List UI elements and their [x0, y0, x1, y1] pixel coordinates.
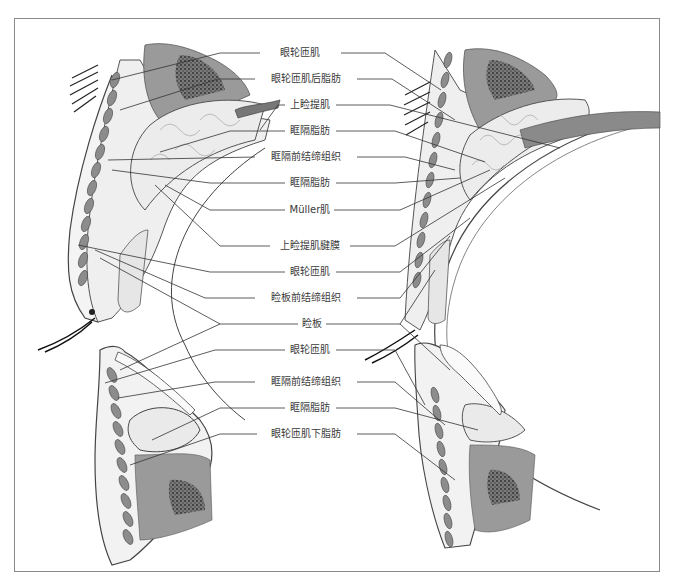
label-tarsus: 睑板 — [300, 318, 324, 330]
label-preseptal-connective-tissue-2: 眶隔前结缔组织 — [269, 376, 343, 388]
right-upper-eyelash — [365, 330, 418, 363]
label-muller-muscle: Müller肌 — [288, 204, 333, 216]
right-lower-orbital-fat — [462, 404, 525, 442]
label-orbicularis-oculi-2: 眼轮匝肌 — [288, 266, 332, 278]
label-preseptal-connective-tissue-1: 眶隔前结缔组织 — [269, 151, 343, 163]
right-cross-section — [365, 49, 660, 548]
left-upper-eyelash — [38, 318, 95, 352]
left-cross-section — [38, 44, 280, 565]
left-brow-hair — [70, 65, 98, 112]
label-roof: 眼轮匝肌后脂肪 — [269, 73, 343, 85]
label-levator: 上睑提肌 — [288, 99, 332, 111]
label-soof: 眼轮匝肌下脂肪 — [269, 428, 343, 440]
label-orbicularis-oculi-1: 眼轮匝肌 — [278, 47, 322, 59]
label-orbicularis-oculi-3: 眼轮匝肌 — [288, 344, 332, 356]
left-globe-curve — [171, 148, 265, 420]
label-pretarsal-connective-tissue: 睑板前结缔组织 — [269, 292, 343, 304]
label-orbital-fat-1: 眶隔脂肪 — [288, 125, 332, 137]
label-orbital-fat-2: 眶隔脂肪 — [288, 177, 332, 189]
label-levator-aponeurosis: 上睑提肌腱膜 — [278, 240, 342, 252]
label-orbital-fat-3: 眶隔脂肪 — [288, 402, 332, 414]
